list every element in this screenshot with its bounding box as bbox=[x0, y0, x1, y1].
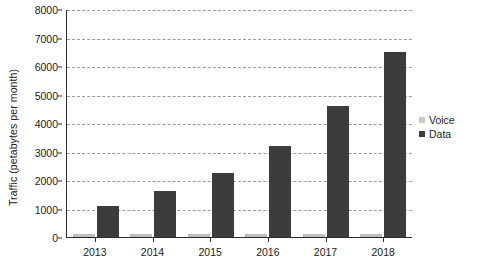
x-tick-mark bbox=[268, 238, 269, 242]
bar-group[interactable] bbox=[242, 10, 294, 237]
y-tick-mark bbox=[58, 10, 62, 11]
x-tick-label-2013: 2013 bbox=[83, 246, 106, 258]
y-tick-label: 4000 bbox=[35, 119, 58, 129]
x-tick-mark bbox=[153, 238, 154, 242]
bars-layer bbox=[67, 10, 412, 237]
x-tick-mark bbox=[95, 238, 96, 242]
bar-voice-2017[interactable] bbox=[303, 234, 325, 237]
bar-group[interactable] bbox=[300, 10, 352, 237]
y-tick-mark bbox=[58, 152, 62, 153]
y-tick-label: 1000 bbox=[35, 205, 58, 215]
bar-data-2015[interactable] bbox=[212, 173, 234, 237]
x-tick-mark bbox=[210, 238, 211, 242]
bar-group[interactable] bbox=[127, 10, 179, 237]
bar-data-2016[interactable] bbox=[269, 146, 291, 237]
bar-voice-2016[interactable] bbox=[245, 234, 267, 237]
bar-data-2018[interactable] bbox=[384, 52, 406, 237]
bar-group[interactable] bbox=[357, 10, 409, 237]
bar-group[interactable] bbox=[185, 10, 237, 237]
legend-item-data[interactable]: Data bbox=[419, 127, 477, 141]
x-tick-label-2016: 2016 bbox=[256, 246, 279, 258]
y-tick-mark bbox=[58, 124, 62, 125]
y-axis-title: Traffic (petabytes per month) bbox=[0, 0, 26, 275]
bar-voice-2013[interactable] bbox=[73, 234, 95, 237]
x-tick-label-2015: 2015 bbox=[198, 246, 221, 258]
y-tick-mark bbox=[58, 181, 62, 182]
y-tick-label: 6000 bbox=[35, 62, 58, 72]
y-tick-label: 5000 bbox=[35, 91, 58, 101]
y-tick-mark bbox=[58, 209, 62, 210]
y-tick-label: 2000 bbox=[35, 176, 58, 186]
y-tick-mark bbox=[58, 38, 62, 39]
x-axis-tick-labels: 201320142015201620172018 bbox=[66, 238, 412, 268]
y-tick-label: 3000 bbox=[35, 148, 58, 158]
y-tick-mark bbox=[58, 67, 62, 68]
bar-voice-2018[interactable] bbox=[360, 234, 382, 237]
legend-swatch-icon bbox=[419, 117, 425, 123]
x-tick-mark bbox=[383, 238, 384, 242]
bar-data-2013[interactable] bbox=[97, 206, 119, 237]
x-tick-mark bbox=[326, 238, 327, 242]
legend-item-voice[interactable]: Voice bbox=[419, 113, 477, 127]
y-tick-mark bbox=[58, 238, 62, 239]
legend-label: Data bbox=[429, 128, 451, 140]
bar-voice-2014[interactable] bbox=[130, 234, 152, 237]
bar-data-2014[interactable] bbox=[154, 191, 176, 237]
x-tick-label-2014: 2014 bbox=[141, 246, 164, 258]
y-axis-tick-labels: 010002000300040005000600070008000 bbox=[26, 10, 62, 242]
bar-chart: Traffic (petabytes per month) 0100020003… bbox=[0, 0, 479, 275]
legend-swatch-icon bbox=[419, 131, 425, 137]
bar-voice-2015[interactable] bbox=[188, 234, 210, 237]
chart-legend: VoiceData bbox=[419, 113, 477, 141]
legend-label: Voice bbox=[429, 114, 455, 126]
bar-group[interactable] bbox=[70, 10, 122, 237]
x-tick-label-2017: 2017 bbox=[314, 246, 337, 258]
bar-data-2017[interactable] bbox=[327, 106, 349, 237]
y-tick-mark bbox=[58, 95, 62, 96]
plot-area bbox=[66, 10, 412, 238]
y-tick-label: 7000 bbox=[35, 34, 58, 44]
x-tick-label-2018: 2018 bbox=[371, 246, 394, 258]
y-tick-label: 8000 bbox=[35, 5, 58, 15]
